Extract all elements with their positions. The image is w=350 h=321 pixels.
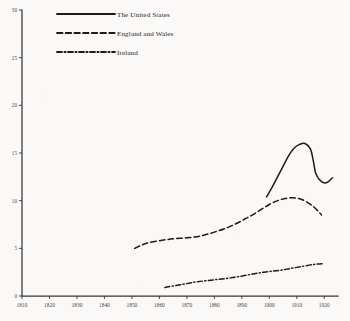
x-tick-label: 1900 [264, 302, 275, 308]
chart-figure: 051015202530 181018201830184018501860187… [0, 0, 350, 321]
x-tick-label: 1890 [236, 302, 247, 308]
x-tick-label: 1820 [44, 302, 55, 308]
x-tick-label: 1910 [291, 302, 302, 308]
chart-canvas: 051015202530 181018201830184018501860187… [0, 0, 350, 321]
x-tick-label: 1860 [154, 302, 165, 308]
x-tick-label: 1870 [181, 302, 192, 308]
y-tick-label: 15 [12, 150, 18, 156]
y-tick-label: 5 [14, 245, 17, 251]
y-tick-label: 30 [12, 7, 18, 13]
y-tick-label: 20 [12, 102, 18, 108]
series-line-the-united-states [267, 143, 333, 197]
chart-legend: The United StatesEngland and WalesIrelan… [57, 11, 174, 57]
y-axis-tick-labels: 051015202530 [12, 7, 18, 299]
series-line-ireland [165, 264, 324, 288]
x-tick-label: 1830 [72, 302, 83, 308]
legend-label: England and Wales [117, 30, 174, 38]
x-tick-label: 1810 [17, 302, 28, 308]
data-series-group [135, 143, 333, 287]
x-tick-label: 1850 [127, 302, 138, 308]
x-tick-label: 1920 [319, 302, 330, 308]
series-line-england-and-wales [135, 198, 322, 249]
y-tick-label: 25 [12, 55, 18, 61]
y-tick-label: 10 [12, 198, 18, 204]
y-tick-label: 0 [14, 293, 17, 299]
x-tick-label: 1880 [209, 302, 220, 308]
x-axis-tick-labels: 1810182018301840185018601870188018901900… [17, 302, 330, 308]
legend-label: The United States [117, 11, 170, 19]
legend-label: Ireland [117, 49, 138, 57]
x-tick-label: 1840 [99, 302, 110, 308]
